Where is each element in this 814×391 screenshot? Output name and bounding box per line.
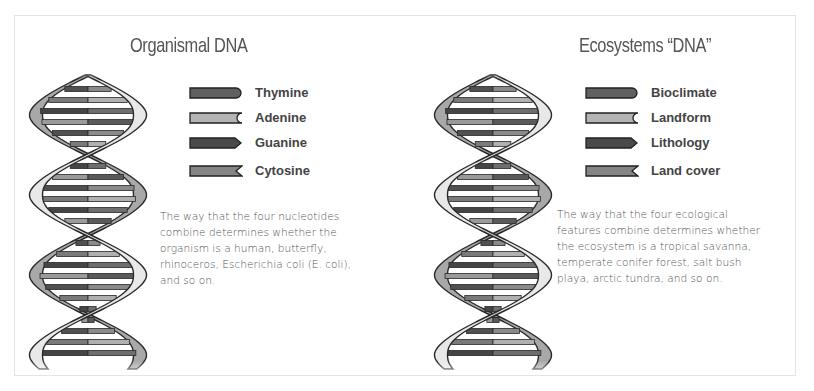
description-line: features combine determines whether xyxy=(557,222,772,238)
legend-item-guanine: Guanine xyxy=(189,130,310,155)
description-line: playa, arctic tundra, and so on. xyxy=(557,270,772,286)
description-line: the ecosystem is a tropical savanna, xyxy=(557,238,772,254)
description-line: combine determines whether the xyxy=(160,224,375,240)
land-cover-v-notch-bar-icon xyxy=(585,165,639,177)
legend-label: Land cover xyxy=(651,163,720,178)
dna-helix-icon xyxy=(18,60,158,380)
legend-item-lithology: Lithology xyxy=(585,130,720,155)
description-line: The way that the four nucleotides xyxy=(160,208,375,224)
description-line: and so on. xyxy=(160,272,375,288)
description-line: temperate conifer forest, salt bush xyxy=(557,254,772,270)
legend-label: Adenine xyxy=(255,110,306,125)
legend: Thymine Adenine Guanine Cytosine xyxy=(189,80,310,183)
panel-title: Organismal DNA xyxy=(130,33,247,57)
description-text: The way that the four ecological feature… xyxy=(557,206,772,286)
panel-title: Ecosystems “DNA” xyxy=(579,33,711,57)
legend-item-thymine: Thymine xyxy=(189,80,310,105)
legend: Bioclimate Landform Lithology Land cover xyxy=(585,80,720,183)
legend-item-adenine: Adenine xyxy=(189,105,310,130)
legend-label: Guanine xyxy=(255,135,307,150)
organismal-dna-panel: Organismal DNA Thymine Adenine Guanine C… xyxy=(0,0,407,391)
description-text: The way that the four nucleotides combin… xyxy=(160,208,375,288)
legend-item-cytosine: Cytosine xyxy=(189,158,310,183)
thymine-rounded-bar-icon xyxy=(189,87,243,99)
bioclimate-rounded-bar-icon xyxy=(585,87,639,99)
landform-notched-bar-icon xyxy=(585,112,639,124)
description-line: organism is a human, butterfly, xyxy=(160,240,375,256)
cytosine-v-notch-bar-icon xyxy=(189,165,243,177)
lithology-pointed-bar-icon xyxy=(585,137,639,149)
description-line: The way that the four ecological xyxy=(557,206,772,222)
legend-item-bioclimate: Bioclimate xyxy=(585,80,720,105)
legend-label: Lithology xyxy=(651,135,710,150)
adenine-notched-bar-icon xyxy=(189,112,243,124)
legend-label: Thymine xyxy=(255,85,308,100)
guanine-pointed-bar-icon xyxy=(189,137,243,149)
ecosystems-dna-panel: Ecosystems “DNA” Bioclimate Landform Lit… xyxy=(407,0,814,391)
legend-label: Bioclimate xyxy=(651,85,717,100)
legend-label: Landform xyxy=(651,110,711,125)
description-line: rhinoceros, Escherichia coli (E. coli), xyxy=(160,256,375,272)
legend-item-land-cover: Land cover xyxy=(585,158,720,183)
dna-helix-icon xyxy=(423,60,563,380)
legend-item-landform: Landform xyxy=(585,105,720,130)
legend-label: Cytosine xyxy=(255,163,310,178)
